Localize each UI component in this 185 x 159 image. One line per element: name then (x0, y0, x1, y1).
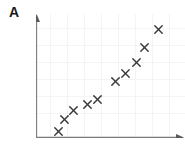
data-point (120, 68, 131, 79)
panel-label: A (9, 5, 19, 19)
data-point (68, 105, 79, 116)
data-point (53, 126, 64, 137)
plot-area (36, 14, 185, 138)
data-point (92, 94, 103, 105)
data-point (153, 24, 164, 35)
data-point-group (36, 14, 185, 138)
scatter-plot-figure: A (0, 0, 185, 159)
data-point (131, 57, 142, 68)
data-point (139, 42, 150, 53)
